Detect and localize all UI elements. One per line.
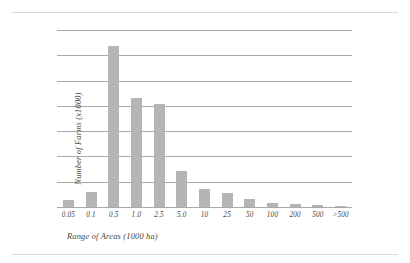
bar [222, 193, 233, 207]
x-axis-baseline [57, 207, 352, 208]
x-tick-label: 2.5 [148, 211, 171, 219]
bar-slot [102, 30, 125, 207]
bar-slot [148, 30, 171, 207]
x-tick-label: 0.5 [102, 211, 125, 219]
x-tick-label: 10 [193, 211, 216, 219]
figure-top-rule [12, 12, 398, 13]
bar [199, 189, 210, 207]
x-tick-label: 0.05 [57, 211, 80, 219]
x-tick-label: 200 [284, 211, 307, 219]
bars-group [57, 30, 352, 207]
x-tick-label: 500 [307, 211, 330, 219]
y-axis-title: Number of Farms (x1000) [74, 74, 83, 204]
bar [244, 199, 255, 207]
bar-slot [239, 30, 262, 207]
bar [108, 46, 119, 207]
bar-slot [80, 30, 103, 207]
x-tick-label: 50 [239, 211, 262, 219]
x-axis-ticks: 0.050.10.51.02.55.0102550100200500>500 [57, 211, 352, 219]
bar [131, 98, 142, 207]
bar-slot [170, 30, 193, 207]
bar-slot [261, 30, 284, 207]
x-axis-title: Range of Areas (1000 ha) [57, 232, 362, 241]
bar [63, 200, 74, 207]
bar-slot [193, 30, 216, 207]
x-tick-label: 1.0 [125, 211, 148, 219]
x-tick-label: 100 [261, 211, 284, 219]
x-tick-label: 0.1 [80, 211, 103, 219]
plot-area: 0481216202428 Number of Farms (x1000) [57, 30, 352, 208]
chart-figure: 0481216202428 Number of Farms (x1000) 0.… [0, 0, 410, 263]
x-tick-label: >500 [329, 211, 352, 219]
bar-slot [216, 30, 239, 207]
bar-slot [284, 30, 307, 207]
bar-slot [329, 30, 352, 207]
bar [176, 171, 187, 207]
x-tick-label: 25 [216, 211, 239, 219]
x-tick-label: 5.0 [170, 211, 193, 219]
bar-slot [125, 30, 148, 207]
bar [154, 104, 165, 207]
bar-slot [307, 30, 330, 207]
figure-bottom-rule [12, 254, 398, 255]
bar [86, 192, 97, 207]
